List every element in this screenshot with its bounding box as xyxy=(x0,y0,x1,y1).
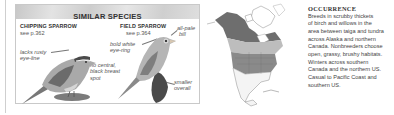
species-name-field-sparrow: FIELD SPARROW xyxy=(120,23,166,29)
species-name-chipping-sparrow: CHIPPING SPARROW xyxy=(20,23,77,29)
similar-species-header: SIMILAR SPECIES xyxy=(16,5,199,19)
chipping-sparrow-illustration xyxy=(20,39,100,105)
species-page-ref-chipping-sparrow[interactable]: see p.362 xyxy=(20,30,45,36)
similar-species-title: SIMILAR SPECIES xyxy=(73,12,141,21)
note-all-pale-bill: all-pale bill xyxy=(177,25,195,38)
occurrence-title: OCCURRENCE xyxy=(308,5,356,12)
page-edge-divider xyxy=(5,0,6,113)
range-map xyxy=(205,2,300,112)
field-sparrow-illustration xyxy=(116,31,178,103)
occurrence-description: Breeds in scrubby thickets of birch and … xyxy=(308,13,394,90)
similar-species-panel: SIMILAR SPECIES CHIPPING SPARROW see p.3… xyxy=(15,4,200,104)
